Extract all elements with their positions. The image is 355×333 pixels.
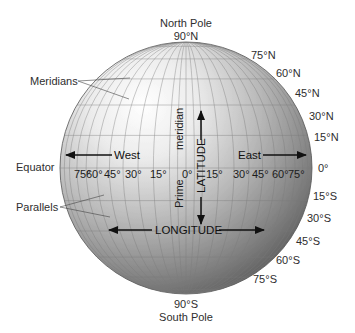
lat-30s: 30°S bbox=[307, 212, 331, 224]
lat-30n: 30°N bbox=[309, 110, 334, 122]
lat-15n: 15°N bbox=[314, 131, 339, 143]
lat-75s: 75°S bbox=[253, 273, 277, 285]
svg-text:75°: 75° bbox=[288, 168, 305, 180]
east-label: East bbox=[238, 149, 262, 161]
svg-text:45°: 45° bbox=[252, 168, 269, 180]
prime-label: Prime bbox=[173, 179, 185, 208]
svg-text:30°: 30° bbox=[125, 168, 142, 180]
svg-text:60°: 60° bbox=[272, 168, 289, 180]
svg-text:0°: 0° bbox=[182, 168, 193, 180]
meridian-label: meridian bbox=[173, 108, 185, 150]
equator-callout: Equator bbox=[16, 161, 55, 173]
north-pole-label: North Pole bbox=[160, 17, 212, 29]
svg-text:30°: 30° bbox=[233, 168, 250, 180]
lat-0: 0° bbox=[318, 162, 329, 174]
parallels-callout: Parallels bbox=[16, 201, 59, 213]
lat-15s: 15°S bbox=[313, 190, 337, 202]
svg-text:15°: 15° bbox=[206, 168, 223, 180]
latitude-label: LATITUDE bbox=[195, 138, 207, 193]
lat-60s: 60°S bbox=[276, 254, 300, 266]
south-pole-degree: 90°S bbox=[174, 298, 198, 310]
lat-45n: 45°N bbox=[295, 87, 320, 99]
west-label: West bbox=[114, 149, 141, 161]
meridians-callout: Meridians bbox=[30, 75, 78, 87]
lat-60n: 60°N bbox=[276, 67, 301, 79]
svg-text:15°: 15° bbox=[150, 168, 167, 180]
lat-75n: 75°N bbox=[251, 49, 276, 61]
south-pole-label: South Pole bbox=[159, 311, 213, 323]
svg-text:45°: 45° bbox=[104, 168, 121, 180]
longitude-label: LONGITUDE bbox=[155, 224, 222, 236]
globe-diagram: North Pole 90°N 90°S South Pole 75°N 60°… bbox=[0, 0, 355, 333]
north-pole-degree: 90°N bbox=[174, 30, 199, 42]
svg-text:60°: 60° bbox=[86, 168, 103, 180]
lat-45s: 45°S bbox=[296, 235, 320, 247]
